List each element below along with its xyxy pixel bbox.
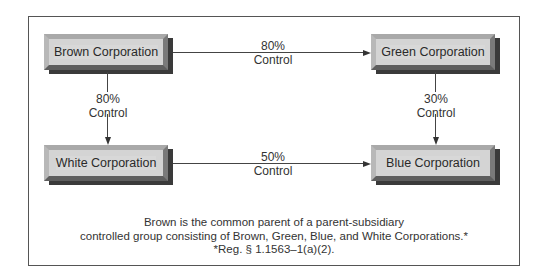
node-label: Green Corporation bbox=[381, 45, 485, 59]
edge-brown-white-label: 80% Control bbox=[68, 92, 148, 120]
node-label: Blue Corporation bbox=[386, 156, 480, 170]
node-white-corporation: White Corporation bbox=[44, 145, 168, 181]
diagram-caption: Brown is the common parent of a parent-s… bbox=[28, 216, 520, 257]
node-brown-corporation: Brown Corporation bbox=[44, 34, 168, 70]
node-label: Brown Corporation bbox=[54, 45, 158, 59]
edge-white-blue-label: 50% Control bbox=[218, 150, 328, 178]
arrow-down-icon bbox=[433, 137, 439, 145]
edge-green-blue-label: 30% Control bbox=[396, 92, 476, 120]
node-green-corporation: Green Corporation bbox=[371, 34, 495, 70]
node-blue-corporation: Blue Corporation bbox=[371, 145, 495, 181]
edge-brown-green-label: 80% Control bbox=[218, 39, 328, 67]
edge-green-blue-line-top bbox=[435, 72, 436, 92]
arrow-right-icon bbox=[363, 161, 371, 167]
arrow-down-icon bbox=[105, 137, 111, 145]
arrow-right-icon bbox=[363, 50, 371, 56]
edge-brown-white-line-top bbox=[107, 72, 108, 92]
node-label: White Corporation bbox=[56, 156, 157, 170]
